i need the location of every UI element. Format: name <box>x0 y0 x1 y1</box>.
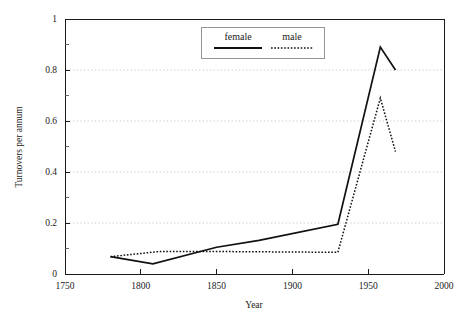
gridlines <box>66 70 443 223</box>
y-tick-label: 1 <box>52 14 57 24</box>
x-axis-title: Year <box>245 300 263 310</box>
y-tick-label: 0.4 <box>45 167 57 177</box>
series-line-female <box>110 47 395 264</box>
line-chart: 00.20.40.60.81 175018001850190019502000 … <box>0 0 476 324</box>
chart-figure: 00.20.40.60.81 175018001850190019502000 … <box>0 0 476 324</box>
x-tick-label: 1750 <box>56 281 75 291</box>
y-axis-title: Turnovers per annum <box>14 106 24 188</box>
x-tick-label: 1900 <box>283 281 302 291</box>
y-tick-label: 0.2 <box>45 218 57 228</box>
legend: female male <box>201 27 324 58</box>
x-tick-label: 1950 <box>359 281 378 291</box>
series-line-male <box>110 98 395 257</box>
y-tick-label: 0.6 <box>45 116 57 126</box>
data-series <box>110 47 395 264</box>
y-tick-label: 0 <box>52 269 57 279</box>
x-tick-label: 1800 <box>131 281 150 291</box>
x-tick-label: 2000 <box>435 281 454 291</box>
x-tick-label: 1850 <box>207 281 226 291</box>
x-axis-ticks: 175018001850190019502000 <box>56 269 454 291</box>
legend-label-female: female <box>224 31 252 42</box>
y-axis-ticks: 00.20.40.60.81 <box>45 14 70 279</box>
y-tick-label: 0.8 <box>45 65 57 75</box>
legend-label-male: male <box>282 31 302 42</box>
legend-border <box>201 27 324 58</box>
